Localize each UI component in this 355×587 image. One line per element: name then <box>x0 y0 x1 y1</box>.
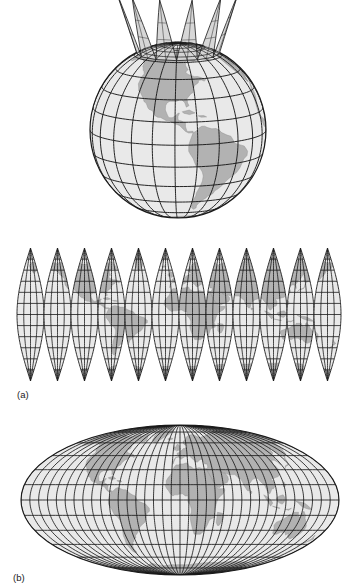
figure-globe-projections: (a) (b) <box>0 0 355 587</box>
panel-flat-gores <box>0 238 355 390</box>
figure-caption-a: (a) <box>17 389 29 400</box>
globe-svg <box>0 0 355 238</box>
panel-globe-with-gores <box>0 0 355 238</box>
panel-mollweide <box>0 424 355 574</box>
figure-caption-b: (b) <box>13 572 25 583</box>
gores-svg <box>0 238 355 390</box>
mollweide-svg <box>0 424 355 574</box>
